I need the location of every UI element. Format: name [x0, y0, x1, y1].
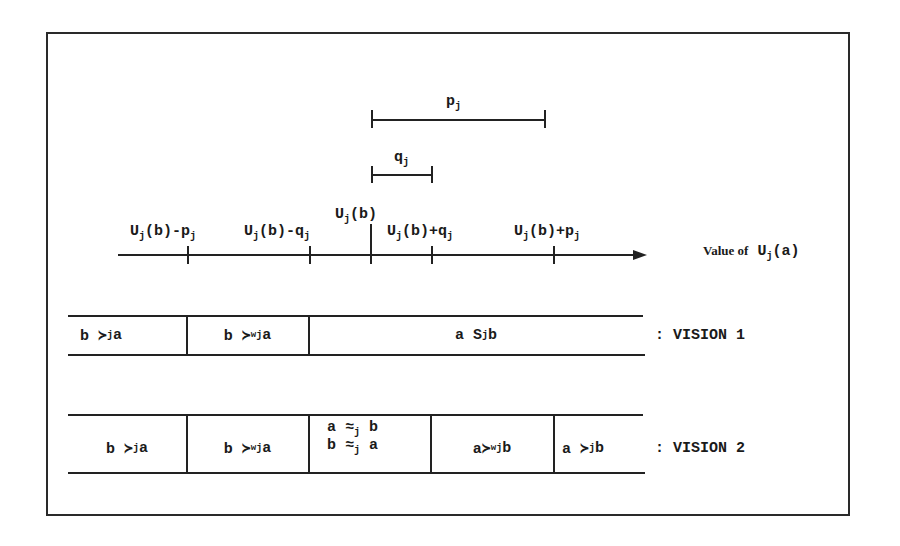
p-threshold-bar — [371, 119, 545, 121]
value-axis-line — [118, 254, 634, 256]
vision2-cell-weak-pref-a: a≻wj b — [431, 428, 553, 468]
axis-tick-minus-p — [187, 246, 189, 264]
vision1-label: : VISION 1 — [655, 328, 745, 343]
axis-tick-center — [370, 224, 372, 264]
axis-arrow-icon — [633, 250, 647, 260]
p-threshold-label: pj — [446, 94, 461, 112]
vision2-top-border — [68, 414, 643, 416]
axis-tick-minus-q — [309, 246, 311, 264]
tick-label-plus-q: Uj(b)+qj — [387, 224, 453, 242]
vision2-cell-weak-pref-b: b ≻wj a — [187, 428, 308, 468]
vision1-cell-strict-pref-b: b ≻j a — [68, 316, 186, 354]
vision2-cell-strict-pref-b: b ≻j a — [68, 428, 186, 468]
tick-label-plus-p: Uj(b)+pj — [514, 224, 580, 242]
q-threshold-label: qj — [394, 150, 409, 168]
tick-label-minus-p: Uj(b)-pj — [130, 224, 196, 242]
axis-tick-plus-q — [431, 246, 433, 264]
vision2-divider-4 — [553, 414, 555, 473]
tick-label-minus-q: Uj(b)-qj — [244, 224, 310, 242]
vision2-bottom-border — [68, 472, 645, 474]
p-threshold-right-cap — [544, 110, 546, 128]
q-threshold-bar — [371, 174, 432, 176]
indifference-line-2: b ≈j a — [327, 438, 378, 457]
vision2-label: : VISION 2 — [655, 441, 745, 456]
p-threshold-left-cap — [371, 110, 373, 128]
axis-tick-plus-p — [553, 246, 555, 264]
vision1-cell-weak-pref-b: b ≻wj a — [187, 316, 308, 354]
vision1-cell-outranks: a Sj b — [309, 316, 643, 354]
vision2-cell-strict-pref-a: a ≻j b — [562, 428, 652, 468]
vision1-bottom-border — [68, 354, 645, 356]
tick-label-center: Uj(b) — [335, 207, 377, 225]
vision2-cell-indifference: a ≈j b b ≈j a — [309, 418, 430, 458]
q-threshold-right-cap — [431, 166, 433, 183]
indifference-line-1: a ≈j b — [327, 420, 378, 439]
axis-title: Value of Uj(a) — [703, 244, 799, 262]
q-threshold-left-cap — [371, 166, 373, 183]
